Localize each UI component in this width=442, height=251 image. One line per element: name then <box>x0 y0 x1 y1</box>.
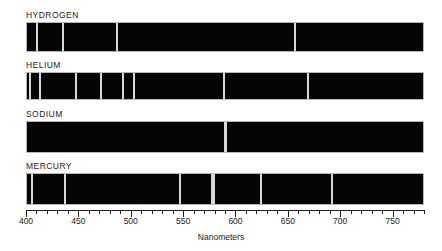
emission-line <box>39 73 41 99</box>
emission-line <box>223 73 225 99</box>
element-label-hydrogen: HYDROGEN <box>26 10 79 20</box>
emission-line <box>116 23 118 51</box>
axis-tick-label: 700 <box>333 216 347 226</box>
spectrum-band-hydrogen <box>26 22 424 52</box>
axis-tick-minor <box>99 210 100 214</box>
axis-tick-minor <box>225 210 226 214</box>
spectrum-band-mercury <box>26 173 424 205</box>
axis-tick-minor <box>36 210 37 214</box>
emission-line <box>75 73 77 99</box>
axis-tick-label: 750 <box>385 216 399 226</box>
axis-tick-minor <box>361 210 362 214</box>
emission-line <box>31 174 33 204</box>
axis-tick-minor <box>424 210 425 214</box>
axis-tick-label: 400 <box>19 216 33 226</box>
emission-line <box>122 73 124 99</box>
axis-tick-minor <box>267 210 268 214</box>
emission-line <box>133 73 135 99</box>
axis-title: Nanometers <box>0 232 442 242</box>
emission-line <box>331 174 333 204</box>
axis-tick-minor <box>256 210 257 214</box>
axis-tick-minor <box>152 210 153 214</box>
axis-tick-minor <box>204 210 205 214</box>
axis-tick-minor <box>382 210 383 214</box>
axis-tick-minor <box>330 210 331 214</box>
axis-tick-label: 550 <box>176 216 190 226</box>
axis-tick-minor <box>68 210 69 214</box>
axis-tick-minor <box>246 210 247 214</box>
axis-tick-minor <box>57 210 58 214</box>
axis-tick-minor <box>215 210 216 214</box>
axis-tick-minor <box>141 210 142 214</box>
axis-tick-minor <box>110 210 111 214</box>
axis-tick-minor <box>309 210 310 214</box>
emission-line <box>36 23 38 51</box>
axis-tick-minor <box>403 210 404 214</box>
axis-tick-label: 600 <box>228 216 242 226</box>
axis-tick-minor <box>277 210 278 214</box>
axis-tick-minor <box>162 210 163 214</box>
axis-tick-label: 450 <box>71 216 85 226</box>
emission-line <box>294 23 296 51</box>
spectrum-band-helium <box>26 72 424 100</box>
axis-tick-minor <box>372 210 373 214</box>
emission-line <box>100 73 102 99</box>
axis-tick-minor <box>194 210 195 214</box>
element-label-helium: HELIUM <box>26 60 61 70</box>
axis-tick-minor <box>120 210 121 214</box>
axis-tick-label: 500 <box>124 216 138 226</box>
emission-line <box>307 73 309 99</box>
axis-tick-minor <box>47 210 48 214</box>
axis-tick-minor <box>298 210 299 214</box>
emission-line <box>64 174 66 204</box>
emission-line <box>225 122 227 152</box>
axis-tick-minor <box>351 210 352 214</box>
spectrum-band-sodium <box>26 121 424 153</box>
emission-line <box>179 174 181 204</box>
axis-tick-minor <box>89 210 90 214</box>
spectra-figure: HYDROGENHELIUMSODIUMMERCURY 400450500550… <box>0 0 442 251</box>
emission-line <box>213 174 215 204</box>
axis-tick-minor <box>414 210 415 214</box>
axis-tick-label: 650 <box>281 216 295 226</box>
emission-line <box>29 73 31 99</box>
emission-line <box>62 23 64 51</box>
emission-line <box>260 174 262 204</box>
axis-tick-minor <box>319 210 320 214</box>
element-label-mercury: MERCURY <box>26 161 72 171</box>
element-label-sodium: SODIUM <box>26 109 63 119</box>
axis-tick-minor <box>173 210 174 214</box>
